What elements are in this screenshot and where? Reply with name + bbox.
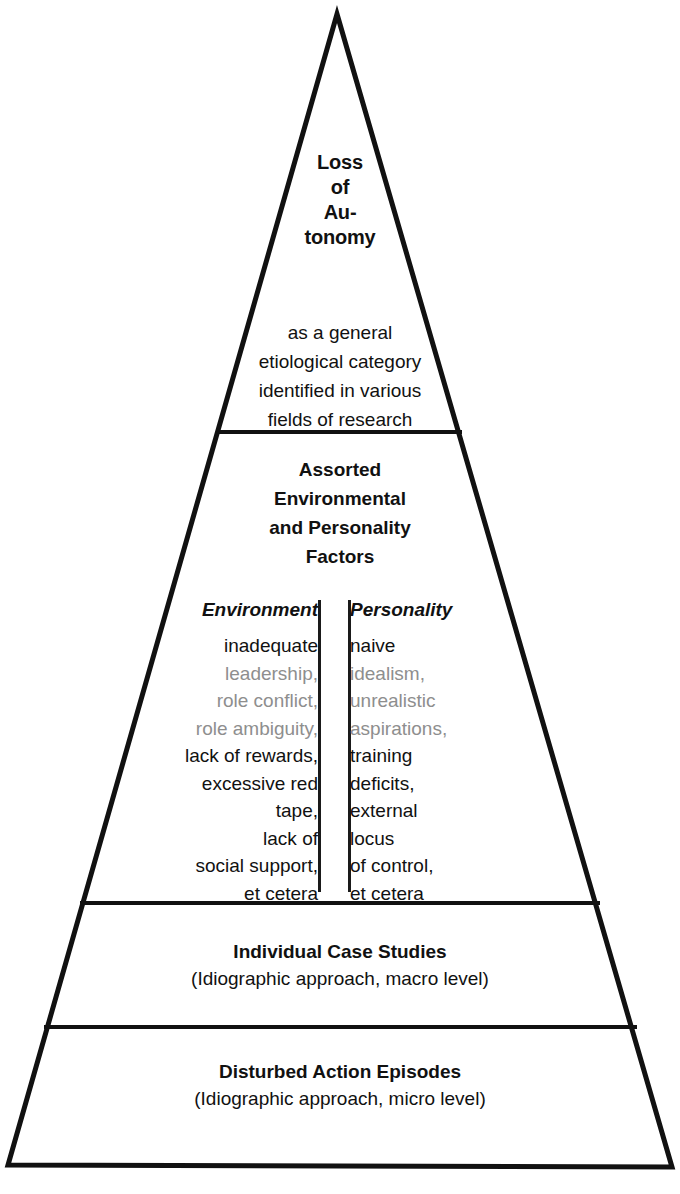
column-environment-list: inadequate leadership, role conflict, ro…: [60, 632, 318, 907]
list-item: of control,: [350, 852, 610, 880]
tier-general-line-1: as a general: [150, 318, 530, 347]
tier-general-line-2: etiological category: [150, 347, 530, 376]
tier-assorted-factors-heading: Assorted Environmental and Personality F…: [150, 455, 530, 571]
list-item: tape,: [60, 797, 318, 825]
list-item: aspirations,: [350, 715, 610, 743]
tier-loss-of-autonomy: Loss of Au- tonomy: [240, 150, 440, 250]
list-item: lack of rewards,: [60, 742, 318, 770]
pyramid-text-layer: Loss of Au- tonomy as a general etiologi…: [0, 0, 680, 1194]
column-personality-heading: Personality: [350, 596, 610, 623]
list-item: lack of: [60, 825, 318, 853]
tier-cases-subtitle: (Idiographic approach, macro level): [90, 965, 590, 992]
list-item: excessive red: [60, 770, 318, 798]
list-item: naive: [350, 632, 610, 660]
tier-apex-line-3: Au-: [240, 200, 440, 225]
list-item: locus: [350, 825, 610, 853]
list-item: unrealistic: [350, 687, 610, 715]
list-item: et cetera: [350, 880, 610, 908]
tier-apex-line-4: tonomy: [240, 225, 440, 250]
list-item: social support,: [60, 852, 318, 880]
column-personality: Personality naive idealism, unrealistic …: [350, 596, 610, 907]
list-item: inadequate: [60, 632, 318, 660]
tier-assorted-line-4: Factors: [150, 542, 530, 571]
tier-general-line-4: fields of research: [150, 405, 530, 434]
list-item: et cetera: [60, 880, 318, 908]
column-personality-list: naive idealism, unrealistic aspirations,…: [350, 632, 610, 907]
list-item: role ambiguity,: [60, 715, 318, 743]
list-item: leadership,: [60, 660, 318, 688]
tier-disturbed-action-episodes: Disturbed Action Episodes (Idiographic a…: [60, 1058, 620, 1112]
column-separator-left: [318, 600, 321, 892]
factor-columns: Environment inadequate leadership, role …: [60, 596, 620, 902]
tier-cases-title: Individual Case Studies: [90, 938, 590, 965]
list-item: training: [350, 742, 610, 770]
tier-individual-case-studies: Individual Case Studies (Idiographic app…: [90, 938, 590, 992]
tier-general-line-3: identified in various: [150, 376, 530, 405]
tier-assorted-line-1: Assorted: [150, 455, 530, 484]
tier-general-category: as a general etiological category identi…: [150, 318, 530, 434]
tier-assorted-line-2: Environmental: [150, 484, 530, 513]
list-item: deficits,: [350, 770, 610, 798]
column-environment: Environment inadequate leadership, role …: [60, 596, 318, 907]
list-item: role conflict,: [60, 687, 318, 715]
tier-assorted-line-3: and Personality: [150, 513, 530, 542]
list-item: external: [350, 797, 610, 825]
tier-episodes-subtitle: (Idiographic approach, micro level): [60, 1085, 620, 1112]
pyramid-diagram: Loss of Au- tonomy as a general etiologi…: [0, 0, 680, 1194]
tier-episodes-title: Disturbed Action Episodes: [60, 1058, 620, 1085]
list-item: idealism,: [350, 660, 610, 688]
tier-apex-line-1: Loss: [240, 150, 440, 175]
tier-apex-line-2: of: [240, 175, 440, 200]
column-environment-heading: Environment: [60, 596, 318, 623]
